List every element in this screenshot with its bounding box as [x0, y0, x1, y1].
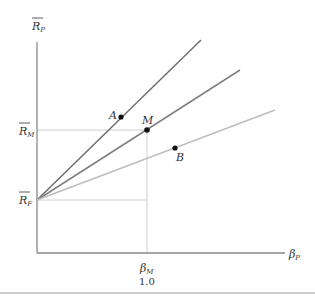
x-axis-title: βP: [288, 248, 300, 262]
point-m: [144, 127, 150, 133]
rf-tick-label: RF: [18, 194, 33, 208]
point-b-label: B: [175, 151, 184, 164]
line-a: [37, 40, 201, 200]
rm-tick-label: RM: [18, 125, 35, 139]
point-b: [172, 145, 177, 150]
point-m-label: M: [141, 114, 154, 127]
diagram-canvas: A M B RP RM RF βM 1.0 βP: [0, 0, 315, 301]
point-a-label: A: [108, 109, 117, 122]
point-a: [118, 114, 123, 119]
beta-m-tick-value: 1.0: [139, 276, 155, 287]
beta-m-tick-label: βM: [139, 262, 154, 276]
y-axis-title: RP: [31, 20, 45, 34]
